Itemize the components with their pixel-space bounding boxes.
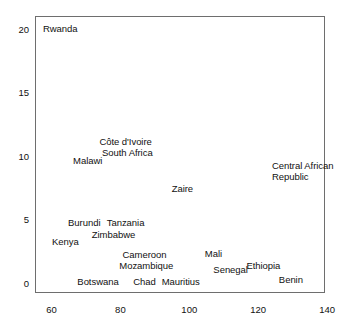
data-point-label-line: Zimbabwe [92, 229, 135, 240]
x-axis-tick-label: 80 [115, 304, 126, 315]
data-point-label-line: Tanzania [107, 218, 145, 229]
y-axis-tick-label: 10 [18, 150, 29, 161]
data-point-label-line: Burundi [68, 218, 100, 229]
data-point-label: Senegal [213, 265, 248, 276]
y-axis-tick-label: 15 [18, 87, 29, 98]
x-axis-tick-label: 120 [250, 304, 266, 315]
data-point-label: Botswana [77, 276, 118, 287]
plot-data-area: RwandaCôte d'IvoireSouth AfricaMalawiCen… [35, 16, 325, 293]
y-axis-tick-label: 5 [24, 214, 29, 225]
data-point-label-line: Côte d'Ivoire [99, 137, 151, 148]
data-point-label: Central AfricanRepublic [272, 161, 334, 182]
data-point-label: Ethiopia [246, 261, 280, 272]
data-point-label: Benin [279, 275, 303, 286]
data-point-label: South Africa [102, 148, 153, 159]
data-point-label-line: Central African [272, 161, 334, 172]
data-point-label-line: Mali [205, 248, 222, 259]
data-point-label: Chad [133, 276, 156, 287]
y-axis-tick-label: 20 [18, 23, 29, 34]
data-point-label: Malawi [73, 156, 102, 167]
y-axis-tick-label: 0 [24, 277, 29, 288]
data-point-label-line: South Africa [102, 148, 153, 159]
data-point-label-line: Mauritius [162, 276, 200, 287]
data-point-label: Zaire [172, 184, 193, 195]
x-axis-tick-label: 140 [319, 304, 335, 315]
x-axis-tick-label: 60 [46, 304, 57, 315]
data-point-label-line: Cameroon [123, 250, 167, 261]
data-point-label-line: Ethiopia [246, 261, 280, 272]
data-point-label: Côte d'Ivoire [99, 137, 151, 148]
data-point-label-line: Rwanda [43, 23, 78, 34]
data-point-label: Tanzania [107, 218, 145, 229]
data-point-label-line: Senegal [213, 265, 248, 276]
data-point-label-line: Republic [272, 171, 334, 182]
data-point-label: Burundi [68, 218, 100, 229]
data-point-label-line: Mozambique [119, 261, 173, 272]
data-point-label-line: Botswana [77, 276, 118, 287]
data-point-label: Mozambique [119, 261, 173, 272]
data-point-label-line: Malawi [73, 156, 102, 167]
data-point-label-line: Zaire [172, 184, 193, 195]
data-point-label: Mauritius [162, 276, 200, 287]
data-point-label: Zimbabwe [92, 229, 135, 240]
scatter-plot-figure: RwandaCôte d'IvoireSouth AfricaMalawiCen… [0, 0, 345, 336]
data-point-label: Kenya [52, 237, 79, 248]
data-point-label: Rwanda [43, 23, 78, 34]
data-point-label-line: Kenya [52, 237, 79, 248]
data-point-label-line: Chad [133, 276, 156, 287]
x-axis-tick-label: 100 [181, 304, 197, 315]
data-point-label-line: Benin [279, 275, 303, 286]
data-point-label: Mali [205, 248, 222, 259]
data-point-label: Cameroon [123, 250, 167, 261]
